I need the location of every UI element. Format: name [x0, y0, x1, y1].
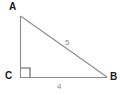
right-angle-marker-icon [21, 68, 30, 77]
vertex-label-a: A [9, 2, 16, 12]
vertex-label-c: C [5, 71, 12, 81]
right-triangle-graphic [0, 0, 120, 95]
side-length-label-base: 4 [57, 83, 61, 91]
geometry-figure: A C B 5 4 [0, 0, 120, 95]
vertex-label-b: B [110, 72, 117, 82]
side-length-label-hypotenuse: 5 [65, 39, 69, 47]
side-ab-line [21, 16, 108, 77]
